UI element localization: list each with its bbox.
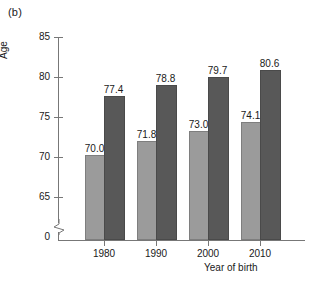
bar <box>260 70 281 240</box>
y-axis-tick <box>54 37 63 38</box>
y-axis-tick <box>54 157 63 158</box>
plot-area: 06570758085 1980199020002010 70.077.471.… <box>0 0 324 281</box>
y-axis-tick-label: 80 <box>26 72 50 82</box>
y-axis-tick-label: 0 <box>26 232 50 242</box>
y-axis-tick <box>54 117 63 118</box>
x-axis-tick <box>104 240 105 246</box>
y-axis-line <box>58 37 59 223</box>
bar <box>85 155 106 240</box>
x-axis-tick <box>156 240 157 246</box>
bar <box>156 85 177 240</box>
bar <box>189 131 210 240</box>
x-axis-tick-label: 1990 <box>131 248 181 259</box>
x-axis-line <box>58 240 305 241</box>
bar <box>104 96 125 240</box>
x-axis-tick-label: 1980 <box>79 248 129 259</box>
y-axis-tick-label: 85 <box>26 32 50 42</box>
x-axis-tick <box>208 240 209 246</box>
bar <box>208 77 229 240</box>
bar-value-label: 77.4 <box>94 84 134 95</box>
bar <box>241 122 262 240</box>
x-axis-tick-label: 2000 <box>183 248 233 259</box>
bar-value-label: 80.6 <box>250 58 290 69</box>
y-axis-tick-label: 70 <box>26 152 50 162</box>
y-axis-tick-label: 75 <box>26 112 50 122</box>
x-axis-tick-label: 2010 <box>235 248 285 259</box>
bar-value-label: 78.8 <box>146 73 186 84</box>
bar <box>137 141 158 240</box>
x-axis-tick <box>260 240 261 246</box>
bar-value-label: 79.7 <box>198 65 238 76</box>
y-axis-tick <box>54 197 63 198</box>
y-axis-tick <box>54 77 63 78</box>
axis-break-icon <box>52 219 66 235</box>
figure-panel: (b) Age Year of birth 06570758085 198019… <box>0 0 324 281</box>
y-axis-tick-label: 65 <box>26 192 50 202</box>
